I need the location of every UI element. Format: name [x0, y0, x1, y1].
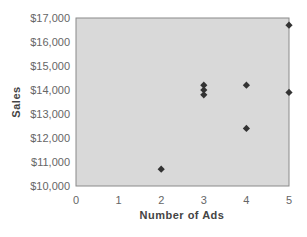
x-tick-label: 1: [116, 194, 122, 206]
y-tick-label: $16,000: [30, 36, 70, 48]
y-tick-label: $11,000: [31, 156, 70, 168]
x-tick-label: 3: [201, 194, 207, 206]
x-tick-label: 2: [158, 194, 164, 206]
x-tick-label: 5: [286, 194, 292, 206]
x-tick-label: 0: [73, 194, 79, 206]
y-axis-title: Sales: [10, 86, 22, 117]
scatter-chart: $10,000$11,000$12,000$13,000$14,000$15,0…: [0, 0, 307, 237]
y-tick-label: $15,000: [30, 60, 70, 72]
y-tick-label: $10,000: [30, 180, 70, 192]
x-axis-ticks: 012345: [73, 194, 292, 206]
y-tick-label: $17,000: [30, 12, 70, 24]
x-tick-label: 4: [243, 194, 249, 206]
y-tick-label: $14,000: [30, 84, 70, 96]
y-tick-label: $12,000: [30, 132, 70, 144]
y-axis-ticks: $10,000$11,000$12,000$13,000$14,000$15,0…: [30, 12, 70, 192]
x-axis-title: Number of Ads: [140, 209, 225, 221]
plot-area: [76, 18, 289, 186]
y-tick-label: $13,000: [30, 108, 70, 120]
